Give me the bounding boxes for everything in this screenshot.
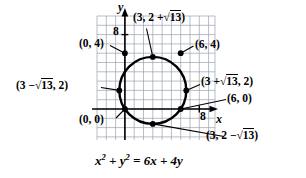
label-point-bottom: (3, 2 −√13)	[206, 130, 258, 142]
label-point-left: (3 −√13, 2)	[16, 80, 68, 92]
equation-caption: x2 + y2 = 6x + 4y	[95, 152, 183, 169]
leader-origin	[116, 109, 125, 118]
label-point-top-radicand: 13	[170, 10, 182, 23]
equation-plus-2: +	[160, 153, 167, 168]
leader-left	[101, 88, 119, 91]
leader-right	[186, 85, 200, 91]
equation-rhs-2: 4y	[171, 153, 183, 168]
leader-top	[147, 29, 153, 57]
label-point-top-pre: (3, 2 +	[133, 11, 164, 23]
label-point-origin: (0, 0)	[79, 114, 104, 126]
label-point-right-radicand: 13	[226, 74, 238, 87]
label-point-6-0: (6, 0)	[227, 93, 252, 105]
axis-ticks	[122, 35, 200, 113]
label-point-left-radicand: 13	[41, 78, 53, 91]
label-point-left-post: , 2)	[53, 79, 68, 91]
x-axis-label: x	[216, 113, 222, 125]
leader-6-4	[181, 46, 194, 53]
label-point-0-4: (0, 4)	[79, 38, 104, 50]
label-point-bottom-radicand: 13	[243, 128, 255, 141]
label-point-right-post: , 2)	[238, 75, 253, 87]
equation-equals: =	[133, 153, 140, 168]
x-tick-8: 8	[200, 111, 206, 123]
label-point-bottom-post: )	[254, 129, 258, 141]
y-axis-label: y	[118, 1, 123, 13]
equation-rhs-1: 6x	[144, 153, 157, 168]
label-point-bottom-pre: (3, 2 −	[206, 129, 237, 141]
equation-plus-1: +	[109, 153, 116, 168]
leader-6-0	[181, 100, 226, 110]
label-point-left-pre: (3 −	[16, 79, 35, 91]
label-point-right-pre: (3 +	[201, 75, 220, 87]
label-point-top-post: )	[181, 11, 185, 23]
label-point-right: (3 +√13, 2)	[201, 76, 253, 88]
label-point-6-4: (6, 4)	[195, 39, 220, 51]
y-tick-8: 8	[113, 26, 119, 38]
leader-0-4	[110, 46, 125, 54]
equation-exp-2: 2	[125, 152, 129, 162]
label-point-top: (3, 2 +√13)	[133, 12, 185, 24]
equation-exp-1: 2	[102, 152, 106, 162]
